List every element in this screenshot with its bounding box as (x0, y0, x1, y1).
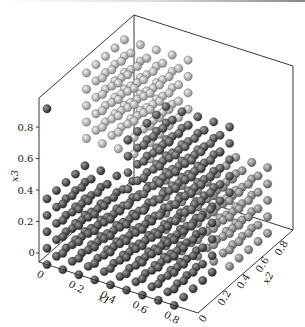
x3-tick-label: 0.8 (18, 122, 34, 133)
data-point-cluster-dark-mid (225, 139, 233, 147)
x3-tick-label: 0 (29, 247, 35, 258)
data-point-cluster-dark-low (78, 183, 86, 191)
data-point-cluster-dark-low (106, 215, 114, 223)
data-point-cluster-dark-mid (206, 139, 214, 147)
data-point-cluster-dark-low (91, 210, 99, 218)
data-point-cluster-dark-mid (187, 172, 195, 180)
data-point-cluster-dark-mid (225, 172, 233, 180)
data-point-cluster-dark-low (199, 260, 207, 268)
data-point-cluster-dark-low (189, 235, 197, 243)
data-point-cluster-light-high (82, 85, 90, 93)
data-point-cluster-light-high (143, 54, 151, 62)
data-point-cluster-dark-mid (140, 174, 148, 182)
data-point-cluster-dark-low (75, 205, 83, 213)
data-point-cluster-dark-low (208, 235, 216, 243)
data-point-cluster-dark-mid (165, 138, 173, 146)
data-point-cluster-dark-low (208, 252, 216, 260)
data-point-cluster-medium (225, 197, 233, 205)
x2-tick-label: 0.2 (215, 288, 233, 307)
data-point-cluster-dark-mid (206, 172, 214, 180)
data-point-cluster-light-high (114, 145, 122, 153)
data-point-cluster-dark-low (180, 227, 188, 235)
data-point-cluster-light-high (140, 76, 148, 84)
data-point-cluster-dark-low (91, 243, 99, 251)
data-point-cluster-medium (254, 205, 262, 213)
data-point-cluster-dark-mid (156, 146, 164, 154)
data-point-cluster-dark-low (170, 268, 178, 276)
data-point-cluster-dark-mid (172, 200, 180, 208)
data-point-cluster-dark-mid (178, 108, 186, 116)
data-point-cluster-dark-mid (156, 195, 164, 203)
data-point-cluster-dark-low (189, 285, 197, 293)
data-point-cluster-dark-low (116, 207, 124, 215)
data-point-cluster-medium (225, 262, 233, 270)
data-point-cluster-light-high (184, 89, 192, 97)
data-point-cluster-dark-mid (175, 129, 183, 137)
data-point-cluster-dark-low (122, 237, 130, 245)
data-point-cluster-medium (254, 188, 262, 196)
data-point-cluster-dark-mid (181, 143, 189, 151)
data-point-cluster-light-high (82, 102, 90, 110)
data-point-cluster-dark-low (122, 270, 130, 278)
x2-tick-label: 0.4 (234, 272, 252, 291)
data-point-cluster-dark-low (138, 225, 146, 233)
data-point-cluster-dark-mid (184, 121, 192, 129)
data-point-cluster-dark-mid (152, 111, 160, 119)
data-point-cluster-dark-mid (216, 148, 224, 156)
data-point-cluster-dark-low (189, 252, 197, 260)
data-point-cluster-medium (254, 221, 262, 229)
data-point-cluster-dark-low (87, 175, 95, 183)
data-point-cluster-dark-mid (156, 179, 164, 187)
data-point-cluster-light-high (82, 134, 90, 142)
data-point-cluster-dark-mid (124, 168, 132, 176)
data-point-cluster-medium (235, 221, 243, 229)
data-point-cluster-dark-low (154, 263, 162, 271)
data-point-cluster-dark-mid (216, 164, 224, 172)
x3-tick-label: 0.4 (18, 185, 34, 196)
data-point-cluster-dark-mid (197, 164, 205, 172)
data-point-cluster-medium (254, 237, 262, 245)
data-point-cluster-dark-mid (149, 132, 157, 140)
data-point-cluster-dark-mid (187, 156, 195, 164)
data-point-cluster-dark-mid (172, 167, 180, 175)
data-point-cluster-dark-low (170, 252, 178, 260)
data-point-cluster-dark-mid (200, 126, 208, 134)
data-point-cluster-dark-low (75, 254, 83, 262)
data-point-cluster-dark-mid (191, 134, 199, 142)
data-point-cluster-dark-mid (197, 148, 205, 156)
data-point-cluster-dark-low (132, 212, 140, 220)
x1-tick-label: 0.2 (67, 278, 86, 295)
data-point-cluster-light-high (165, 73, 173, 81)
data-point-cluster-dark-low (43, 244, 51, 252)
data-point-cluster-dark-mid (143, 119, 151, 127)
data-point-cluster-dark-low (68, 192, 76, 200)
data-point-cluster-dark-low (180, 244, 188, 252)
data-point-cluster-dark-low (164, 222, 172, 230)
data-point-cluster-light-high (130, 100, 138, 108)
data-point-cluster-light-high (130, 117, 138, 125)
x2-tick-label: 0.6 (253, 255, 271, 274)
data-point-cluster-light-high (155, 81, 163, 89)
data-point-cluster-medium (248, 158, 256, 166)
data-point-cluster-dark-mid (187, 222, 195, 230)
data-point-cluster-light-high (114, 79, 122, 87)
data-point-cluster-dark-low (180, 260, 188, 268)
data-point-cluster-dark-mid (216, 131, 224, 139)
scatter-3d-chart: 00.20.40.60.800.20.40.60.800.20.40.60.8 … (0, 0, 305, 327)
data-point-cluster-dark-mid (140, 157, 148, 165)
data-point-cluster-dark-mid (124, 185, 132, 193)
data-point-cluster-dark-mid (225, 156, 233, 164)
data-point-cluster-light-high (130, 84, 138, 92)
data-point-cluster-medium (244, 180, 252, 188)
data-point-cluster-dark-low (138, 258, 146, 266)
data-point-cluster-light-high (98, 74, 106, 82)
data-point-cluster-dark-mid (124, 152, 132, 160)
data-point-cluster-medium (244, 229, 252, 237)
data-point-cluster-dark-low (97, 167, 105, 175)
data-point-cluster-medium (235, 205, 243, 213)
data-point-cluster-dark-low (106, 264, 114, 272)
data-point-cluster-dark-low (62, 178, 70, 186)
data-point-cluster-dark-mid (225, 188, 233, 196)
data-point-cluster-medium (238, 167, 246, 175)
data-point-cluster-light-high (108, 66, 116, 74)
